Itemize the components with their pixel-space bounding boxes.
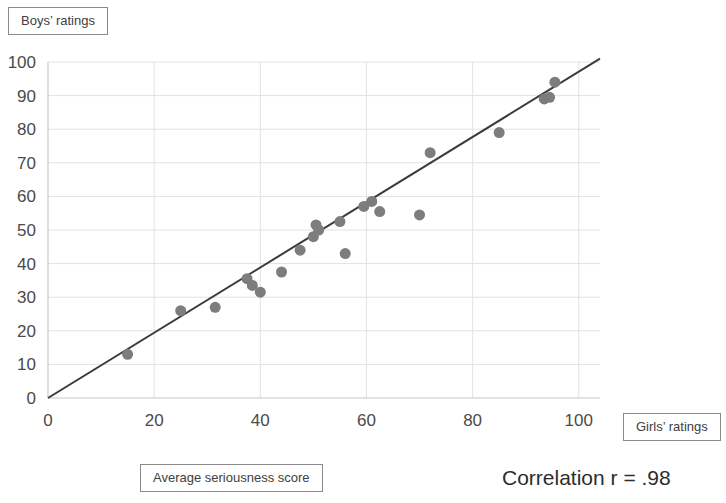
data-point — [122, 349, 133, 360]
x-axis-end-label-callout: Girls’ ratings — [623, 413, 721, 441]
data-point — [340, 248, 351, 259]
data-point — [549, 77, 560, 88]
trend-line — [48, 59, 600, 398]
x-tick-label-20: 20 — [145, 411, 164, 430]
y-tick-label-30: 30 — [17, 288, 36, 307]
y-axis-label-callout: Boys’ ratings — [8, 7, 108, 35]
data-point — [210, 302, 221, 313]
x-tick-label-0: 0 — [43, 411, 52, 430]
data-point — [175, 305, 186, 316]
correlation-annotation: Correlation r = .98 — [502, 466, 671, 490]
trend-line-segment — [48, 59, 600, 398]
y-axis-tick-labels: 0102030405060708090100 — [8, 53, 36, 408]
y-tick-label-100: 100 — [8, 53, 36, 72]
y-tick-label-80: 80 — [17, 120, 36, 139]
x-axis-label-callout: Average seriousness score — [140, 464, 323, 492]
data-point — [313, 225, 324, 236]
y-tick-label-90: 90 — [17, 87, 36, 106]
data-point — [255, 287, 266, 298]
x-tick-label-40: 40 — [251, 411, 270, 430]
data-point — [544, 92, 555, 103]
data-point — [425, 147, 436, 158]
data-point — [494, 127, 505, 138]
y-tick-label-40: 40 — [17, 255, 36, 274]
data-point — [414, 209, 425, 220]
y-tick-label-70: 70 — [17, 154, 36, 173]
data-point — [334, 216, 345, 227]
data-points — [122, 77, 560, 360]
data-point — [276, 267, 287, 278]
data-point — [366, 196, 377, 207]
y-tick-label-50: 50 — [17, 221, 36, 240]
x-tick-label-80: 80 — [463, 411, 482, 430]
y-tick-label-10: 10 — [17, 355, 36, 374]
y-tick-label-20: 20 — [17, 322, 36, 341]
y-tick-label-0: 0 — [27, 389, 36, 408]
data-point — [374, 206, 385, 217]
x-tick-label-100: 100 — [565, 411, 593, 430]
x-tick-label-60: 60 — [357, 411, 376, 430]
chart-canvas: 0102030405060708090100 020406080100 — [0, 0, 726, 503]
scatter-chart: 0102030405060708090100 020406080100 — [0, 0, 726, 503]
x-axis-tick-labels: 020406080100 — [43, 411, 593, 430]
y-tick-label-60: 60 — [17, 187, 36, 206]
data-point — [295, 245, 306, 256]
